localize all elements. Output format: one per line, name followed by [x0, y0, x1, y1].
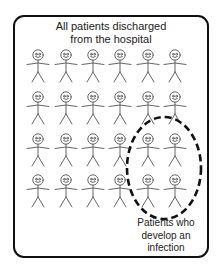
caption-line-1: Patients who — [126, 217, 206, 230]
stick-figure-icon — [55, 50, 77, 82]
figures-group — [27, 50, 186, 207]
stick-figure-icon — [109, 50, 131, 82]
stick-figure-icon — [55, 92, 77, 124]
stick-figure-icon — [27, 134, 49, 166]
stick-figure-icon — [82, 175, 104, 207]
stick-figure-icon — [137, 134, 159, 166]
infection-subset-ellipse — [127, 117, 201, 219]
stick-figure-icon — [27, 175, 49, 207]
stick-figure-icon — [164, 175, 186, 207]
infection-caption: Patients who develop an infection — [126, 217, 206, 255]
stick-figure-icon — [82, 50, 104, 82]
stick-figure-icon — [27, 92, 49, 124]
stick-figure-icon — [137, 50, 159, 82]
caption-line-3: infection — [126, 242, 206, 255]
stick-figure-icon — [55, 134, 77, 166]
stick-figure-icon — [109, 92, 131, 124]
stick-figure-icon — [82, 134, 104, 166]
stick-figure-icon — [164, 92, 186, 124]
stick-figure-icon — [164, 50, 186, 82]
stick-figure-icon — [55, 175, 77, 207]
stick-figure-icon — [27, 50, 49, 82]
caption-line-2: develop an — [126, 230, 206, 243]
stick-figure-icon — [164, 134, 186, 166]
stick-figure-icon — [82, 92, 104, 124]
stick-figure-icon — [137, 175, 159, 207]
